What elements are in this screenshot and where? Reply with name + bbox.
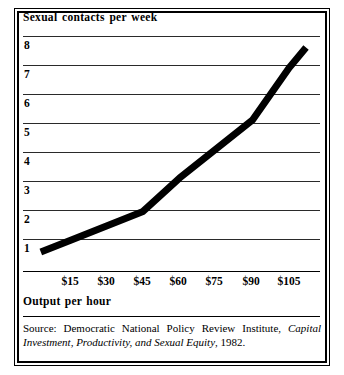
x-tick-label-30: $30 xyxy=(97,275,114,287)
source-suffix: , 1982. xyxy=(215,336,245,348)
x-tick-label-45: $45 xyxy=(133,275,150,287)
x-tick-label-90: $90 xyxy=(242,275,259,287)
chart-title: Sexual contacts per week xyxy=(23,11,157,23)
figure-container: Sexual contacts per week 8 7 6 5 4 3 2 1… xyxy=(0,0,344,375)
source-divider xyxy=(23,316,320,317)
x-axis-caption: Output per hour xyxy=(23,295,111,307)
x-tick-label-75: $75 xyxy=(205,275,222,287)
source-prefix: Source: Democratic National Policy Revie… xyxy=(23,322,288,334)
plot-area: 8 7 6 5 4 3 2 1 $15 $30 $45 $60 $75 $90 … xyxy=(23,34,320,272)
x-tick-label-105: $105 xyxy=(278,275,301,287)
data-line-series xyxy=(23,34,320,272)
x-tick-label-60: $60 xyxy=(169,275,186,287)
source-note: Source: Democratic National Policy Revie… xyxy=(23,322,321,349)
x-tick-label-15: $15 xyxy=(61,275,78,287)
